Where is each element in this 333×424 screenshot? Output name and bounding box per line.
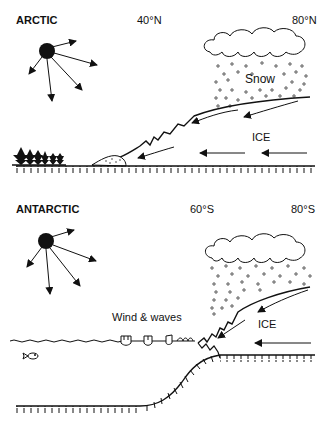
sun-icon bbox=[27, 230, 96, 294]
antarctic-lat-left: 60°S bbox=[190, 203, 214, 215]
moraine bbox=[92, 156, 126, 166]
ice-flow-arrows bbox=[218, 290, 311, 343]
ice-floes bbox=[121, 335, 195, 345]
conifer-trees-icon bbox=[12, 147, 66, 165]
arctic-title: ARCTIC bbox=[16, 14, 58, 26]
arctic-ice-label: ICE bbox=[252, 131, 270, 143]
sun-icon bbox=[29, 41, 97, 101]
ice-flow-arrows bbox=[138, 101, 307, 158]
sea-floor bbox=[16, 355, 315, 413]
cloud-icon bbox=[204, 28, 305, 57]
arctic-lat-right: 80°N bbox=[292, 14, 317, 26]
sea-surface bbox=[10, 340, 130, 342]
wind-waves-label: Wind & waves bbox=[112, 311, 182, 323]
snow-label: Snow bbox=[245, 72, 275, 86]
antarctic-lat-right: 80°S bbox=[291, 203, 315, 215]
arctic-lat-left: 40°N bbox=[137, 14, 162, 26]
fish-icon bbox=[23, 353, 38, 359]
antarctic-ice-label: ICE bbox=[258, 318, 276, 330]
arctic-panel bbox=[12, 28, 315, 173]
ground-line bbox=[16, 166, 315, 173]
cloud-icon bbox=[205, 234, 305, 263]
antarctic-title: ANTARCTIC bbox=[16, 203, 79, 215]
